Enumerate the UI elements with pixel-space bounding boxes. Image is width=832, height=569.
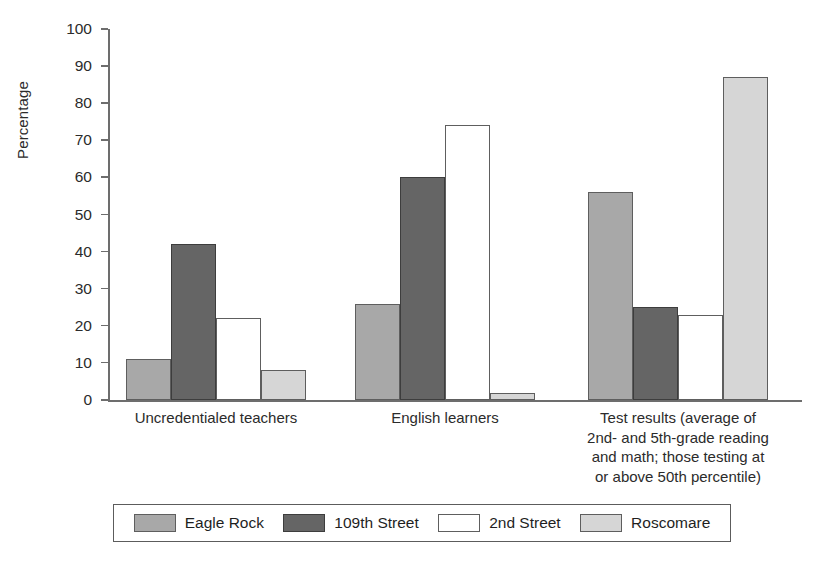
bar bbox=[355, 304, 400, 400]
bar bbox=[678, 315, 723, 400]
y-axis-tick: 20 bbox=[0, 318, 108, 334]
bar-chart: Percentage 1009080706050403020100 Uncred… bbox=[0, 0, 832, 569]
legend-item: Roscomare bbox=[580, 514, 710, 532]
y-axis-tick-mark bbox=[101, 325, 108, 327]
y-axis-tick-label: 70 bbox=[75, 132, 92, 148]
legend-swatch-icon bbox=[580, 514, 622, 532]
bar bbox=[261, 370, 306, 400]
bar bbox=[588, 192, 633, 400]
y-axis-tick-mark bbox=[101, 102, 108, 104]
bar bbox=[445, 125, 490, 400]
y-axis-tick-mark bbox=[101, 251, 108, 253]
y-axis-tick: 30 bbox=[0, 281, 108, 297]
y-axis-tick-label: 60 bbox=[75, 169, 92, 185]
bar bbox=[126, 359, 171, 400]
legend-item: 2nd Street bbox=[438, 514, 561, 532]
legend-item-label: 2nd Street bbox=[489, 514, 561, 532]
bar bbox=[633, 307, 678, 400]
legend-item-label: 109th Street bbox=[334, 514, 418, 532]
legend-swatch-icon bbox=[438, 514, 480, 532]
legend-item-label: Roscomare bbox=[631, 514, 710, 532]
y-axis-tick: 0 bbox=[0, 392, 108, 408]
bar bbox=[723, 77, 768, 400]
y-axis-tick-mark bbox=[101, 362, 108, 364]
x-axis-line bbox=[108, 400, 802, 402]
legend-swatch-icon bbox=[283, 514, 325, 532]
x-axis-category-label: Test results (average of 2nd- and 5th-gr… bbox=[543, 408, 813, 486]
y-axis-tick-mark bbox=[101, 139, 108, 141]
legend-item: Eagle Rock bbox=[134, 514, 264, 532]
y-axis-tick-label: 90 bbox=[75, 58, 92, 74]
bar bbox=[171, 244, 216, 400]
y-axis-tick-label: 40 bbox=[75, 244, 92, 260]
y-axis-tick: 80 bbox=[0, 95, 108, 111]
bar bbox=[400, 177, 445, 400]
y-axis-tick: 10 bbox=[0, 355, 108, 371]
y-axis-tick-label: 0 bbox=[83, 392, 92, 408]
y-axis-tick-label: 50 bbox=[75, 207, 92, 223]
y-axis-tick-label: 20 bbox=[75, 318, 92, 334]
legend-swatch-icon bbox=[134, 514, 176, 532]
legend-item: 109th Street bbox=[283, 514, 418, 532]
legend-item-label: Eagle Rock bbox=[185, 514, 264, 532]
plot-area bbox=[108, 29, 800, 400]
y-axis-tick-mark bbox=[101, 28, 108, 30]
y-axis-tick: 40 bbox=[0, 244, 108, 260]
bar bbox=[490, 393, 535, 400]
y-axis-tick-label: 30 bbox=[75, 281, 92, 297]
y-axis-tick-mark bbox=[101, 176, 108, 178]
y-axis-tick-mark bbox=[101, 399, 108, 401]
y-axis-tick-mark bbox=[101, 65, 108, 67]
y-axis-tick-mark bbox=[101, 288, 108, 290]
bar bbox=[216, 318, 261, 400]
y-axis-tick: 90 bbox=[0, 58, 108, 74]
y-axis-tick: 70 bbox=[0, 132, 108, 148]
y-axis-tick-label: 100 bbox=[66, 21, 92, 37]
legend: Eagle Rock 109th Street 2nd Street Rosco… bbox=[113, 504, 731, 542]
y-axis-tick-mark bbox=[101, 214, 108, 216]
y-axis-tick-label: 10 bbox=[75, 355, 92, 371]
y-axis-tick: 100 bbox=[0, 21, 108, 37]
y-axis-tick: 50 bbox=[0, 207, 108, 223]
y-axis-tick: 60 bbox=[0, 169, 108, 185]
y-axis-tick-label: 80 bbox=[75, 95, 92, 111]
